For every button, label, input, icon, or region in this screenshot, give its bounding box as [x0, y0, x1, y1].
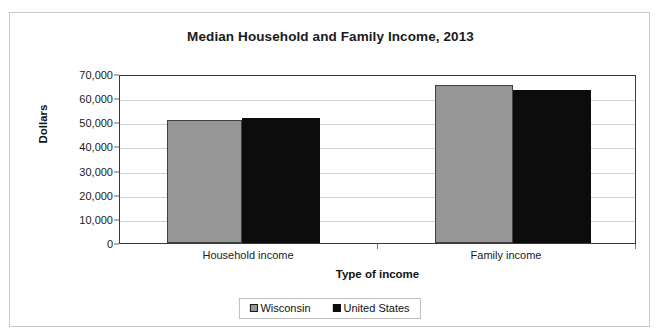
y-tick-label: 70,000 [53, 69, 113, 81]
y-tick-label: 50,000 [53, 117, 113, 129]
legend-item-wisconsin[interactable]: Wisconsin [249, 302, 310, 314]
y-tick-label: 30,000 [53, 166, 113, 178]
bar-united-states-household[interactable] [242, 118, 320, 244]
legend-swatch-icon [249, 304, 257, 312]
x-axis-title: Type of income [119, 268, 636, 280]
legend-swatch-icon [333, 304, 341, 312]
legend-label: United States [344, 302, 410, 314]
x-tick-mark [635, 244, 636, 249]
bar-united-states-family[interactable] [513, 90, 591, 243]
x-category-label-family: Family income [377, 249, 635, 261]
y-tick-label: 40,000 [53, 141, 113, 153]
legend-item-united-states[interactable]: United States [333, 302, 410, 314]
plot-area [119, 75, 636, 244]
chart-legend: Wisconsin United States [238, 298, 420, 319]
y-axis-tick-labels: 70,000 60,000 50,000 40,000 30,000 20,00… [51, 75, 113, 244]
y-axis-title: Dollars [37, 79, 49, 169]
y-tick-label: 10,000 [53, 214, 113, 226]
legend-label: Wisconsin [260, 302, 310, 314]
bar-wisconsin-household[interactable] [167, 120, 242, 243]
x-category-label-household: Household income [119, 249, 377, 261]
chart-title: Median Household and Family Income, 2013 [10, 29, 651, 44]
y-tick-label: 0 [53, 238, 113, 250]
y-tick-label: 60,000 [53, 93, 113, 105]
bar-wisconsin-family[interactable] [435, 85, 513, 243]
y-tick-label: 20,000 [53, 190, 113, 202]
chart-frame: Median Household and Family Income, 2013… [9, 12, 650, 327]
